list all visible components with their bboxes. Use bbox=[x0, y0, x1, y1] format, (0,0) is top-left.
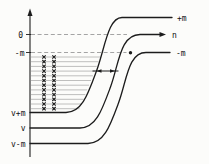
y-axis-arrow-icon bbox=[28, 9, 33, 17]
n-arrow-icon bbox=[160, 32, 167, 37]
label-minus-m-right: -m bbox=[176, 49, 186, 58]
junction-dot bbox=[129, 51, 132, 54]
curve-top-v-plus-m bbox=[30, 18, 172, 113]
curve-middle-v bbox=[30, 35, 160, 129]
label-v: v bbox=[21, 124, 26, 133]
label-v-plus-m: v+m bbox=[11, 109, 26, 118]
energy-diagram: 0 -m v+m v v-m +m n -m bbox=[0, 0, 209, 164]
label-n: n bbox=[172, 31, 177, 40]
label-plus-m: +m bbox=[177, 14, 187, 23]
diagram-canvas: 0 -m v+m v v-m +m n -m bbox=[0, 0, 209, 164]
label-v-minus-m: v-m bbox=[11, 140, 26, 149]
label-zero: 0 bbox=[18, 31, 23, 40]
label-minus-m-left: -m bbox=[15, 49, 25, 58]
energy-levels bbox=[31, 55, 101, 110]
